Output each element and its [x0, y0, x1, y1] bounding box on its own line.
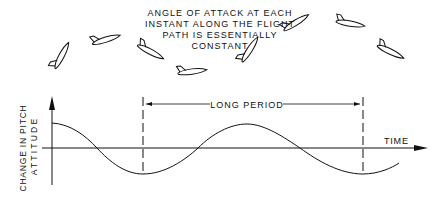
period-right-arrow-icon: [354, 102, 360, 106]
aircraft-icon: [48, 40, 71, 71]
y-axis-label-line-2: ATTITUDE: [29, 117, 39, 176]
aircraft-icon: [136, 38, 167, 61]
aircraft-icon: [236, 34, 261, 64]
aircraft-icon: [376, 39, 407, 61]
aircraft-icon: [176, 64, 207, 76]
period-left-arrow-icon: [146, 102, 152, 106]
aircraft-icon: [280, 9, 311, 32]
aircraft-icon: [90, 29, 121, 46]
period-label: LONG PERIOD: [210, 100, 284, 110]
y-axis-label-line-1: CHANGE IN PITCH: [18, 104, 28, 191]
x-axis-arrow-icon: [414, 145, 428, 151]
aircraft-icon: [335, 14, 366, 29]
phugoid-diagram: LONG PERIOD TIME CHANGE IN PITCH ATTITUD…: [0, 0, 446, 205]
x-axis-label: TIME: [384, 136, 409, 146]
y-axis-arrow-icon: [49, 96, 55, 110]
aircraft-group: [48, 9, 406, 75]
